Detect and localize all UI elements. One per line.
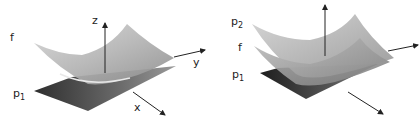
label-p2-sub: 2 [238,21,243,30]
label-y: y [193,57,200,68]
horizontal-axis-right [388,45,418,51]
label-z: z [92,15,98,26]
left-diagram-panel: f p1 z y x [0,0,210,121]
label-p2-base: p [231,15,238,28]
label-p1-base: p [13,87,20,100]
label-p1: p1 [13,88,25,102]
y-axis [174,50,205,57]
label-p1: p1 [232,69,244,83]
label-p1-sub: 1 [239,74,244,83]
left-surface-plot [0,0,210,121]
label-p2: p2 [231,16,243,30]
label-p1-sub: 1 [20,93,25,102]
label-f: f [10,32,14,43]
label-f: f [238,42,242,53]
right-diagram-panel: p2 f p1 [210,0,420,121]
label-x: x [134,102,141,113]
label-p1-base: p [232,68,239,81]
horizontal-axis-down [348,92,383,114]
